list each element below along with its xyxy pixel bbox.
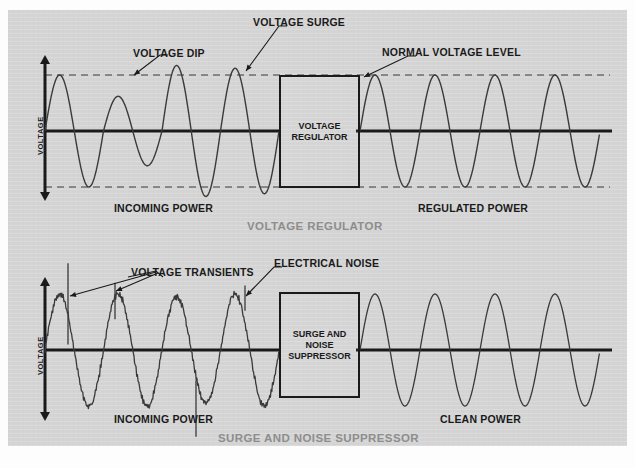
label-clean-power: CLEAN POWER <box>440 413 521 425</box>
callout-electrical-noise: ELECTRICAL NOISE <box>274 257 379 269</box>
label-incoming-power-bottom: INCOMING POWER <box>114 413 213 425</box>
panel-title-surge-noise-suppressor: SURGE AND NOISE SUPPRESSOR <box>218 432 419 444</box>
surge-noise-suppressor-box: SURGE AND NOISE SUPPRESSOR <box>279 292 360 398</box>
surge-noise-suppressor-box-label: SURGE AND NOISE SUPPRESSOR <box>288 329 351 362</box>
figure-stage: VOLTAGE VOLTAGE REGULATOR VOLTAGE DIP VO… <box>0 0 635 468</box>
axis-label-voltage-bottom: VOLTAGE <box>36 336 45 375</box>
callout-voltage-transients: VOLTAGE TRANSIENTS <box>131 266 254 278</box>
